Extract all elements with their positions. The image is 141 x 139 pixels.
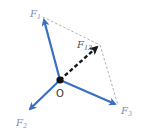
construction-line-f13-f3: [100, 45, 118, 105]
force-vector-f3: [60, 80, 115, 104]
force-vector-f1: [44, 20, 60, 80]
origin-point: [56, 76, 63, 83]
force-diagram: F1 F2 F3 F13 O: [0, 0, 141, 139]
label-f1: F1: [29, 8, 41, 21]
label-f3: F3: [120, 105, 132, 118]
label-origin: O: [56, 88, 64, 99]
label-f2: F2: [15, 117, 27, 130]
construction-line-f1-f13: [43, 17, 100, 45]
label-f13: F13: [76, 39, 92, 52]
